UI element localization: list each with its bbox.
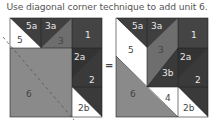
left-block: 5a 3a 1 5 3 2a 2 2b 6 (3, 18, 102, 120)
label-3: 3 (58, 36, 64, 46)
label-1: 1 (191, 30, 197, 40)
label-2b: 2b (78, 103, 90, 113)
label-3b: 3b (162, 68, 174, 78)
label-2b: 2b (183, 103, 195, 113)
label-2: 2 (195, 75, 201, 85)
label-3: 3 (158, 45, 164, 55)
label-4: 4 (165, 93, 171, 103)
label-5: 5 (128, 45, 134, 55)
label-3a: 3a (151, 21, 162, 31)
label-2a: 2a (180, 52, 191, 62)
label-6: 6 (130, 89, 136, 99)
label-3a: 3a (45, 21, 56, 31)
label-5a: 5a (26, 21, 37, 31)
label-5a: 5a (132, 21, 143, 31)
equals-sign: = (105, 60, 113, 71)
label-5: 5 (17, 35, 23, 45)
label-6: 6 (26, 89, 32, 99)
label-1: 1 (85, 30, 91, 40)
label-2a: 2a (74, 52, 85, 62)
right-block: 5a 3a 1 5 3 3b 2a 2 4 2b 6 (116, 18, 208, 117)
label-2: 2 (89, 75, 95, 85)
